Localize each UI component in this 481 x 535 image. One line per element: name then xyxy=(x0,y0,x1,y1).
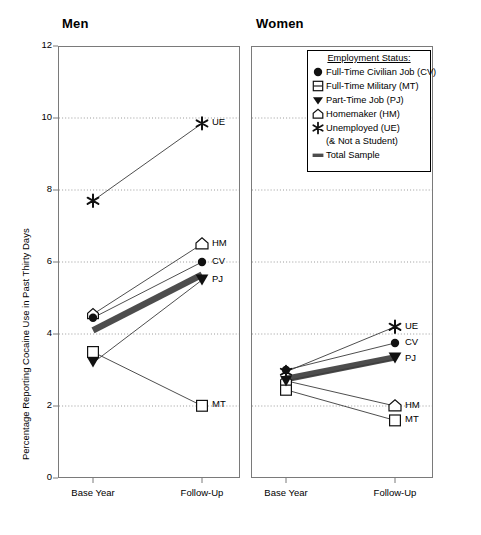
filled-triangle-down-icon xyxy=(311,94,325,106)
legend-label-mt: Full-Time Military (MT) xyxy=(325,82,419,91)
marker-cv-women-base xyxy=(282,366,290,374)
y-tick-8: 8 xyxy=(30,183,52,194)
markers-women-base xyxy=(280,366,292,395)
point-label-women-mt: MT xyxy=(405,413,419,424)
y-tick-0: 0 xyxy=(30,471,52,482)
marker-cv-men-base xyxy=(89,314,97,322)
x-tick-women-follow: Follow-Up xyxy=(365,487,425,498)
point-label-men-pj: PJ xyxy=(212,273,223,284)
series-lines-men xyxy=(93,123,202,405)
marker-hm-men-follow xyxy=(196,238,208,249)
figure-root: Percentage Reporting Cocaine Use in Past… xyxy=(0,0,481,535)
series-total-sample-women xyxy=(286,357,395,379)
marker-mt-men-base xyxy=(88,347,99,358)
legend-title: Employment Status: xyxy=(308,51,430,65)
marker-ue-men-base xyxy=(88,195,99,207)
star-icon xyxy=(311,122,325,134)
y-tick-2: 2 xyxy=(30,399,52,410)
marker-ue-women-follow xyxy=(390,321,401,333)
x-tick-women-base: Base Year xyxy=(256,487,316,498)
filled-circle-icon xyxy=(311,66,325,78)
legend-label-cv: Full-Time Civilian Job (CV) xyxy=(325,68,436,77)
legend-item-total: Total Sample xyxy=(308,148,430,162)
panel-men: UE HM CV PJ MT xyxy=(58,46,240,478)
panel-women: UE CV PJ HM MT Employment Status: Full-T… xyxy=(251,46,433,478)
point-label-women-pj: PJ xyxy=(405,352,416,363)
point-label-women-hm: HM xyxy=(405,399,420,410)
legend-item-ue: Unemployed (UE) xyxy=(308,121,430,135)
point-label-women-ue: UE xyxy=(405,320,418,331)
legend-item-pj: Part-Time Job (PJ) xyxy=(308,93,430,107)
legend-sub-note: (& Not a Student) xyxy=(308,135,430,148)
point-label-men-cv: CV xyxy=(212,255,225,266)
y-axis-ticks: 12 10 8 6 4 2 0 xyxy=(30,46,58,478)
markers-women-follow xyxy=(389,321,402,426)
marker-mt-men-follow xyxy=(197,400,208,411)
point-label-women-cv: CV xyxy=(405,336,418,347)
legend: Employment Status: Full-Time Civilian Jo… xyxy=(307,50,431,172)
panel-title-men: Men xyxy=(62,16,89,31)
open-house-icon xyxy=(311,108,325,120)
x-tick-men-follow: Follow-Up xyxy=(172,487,232,498)
x-tick-men-base: Base Year xyxy=(63,487,123,498)
y-tick-12: 12 xyxy=(30,39,52,50)
legend-label-hm: Homemaker (HM) xyxy=(325,110,400,119)
y-tick-10: 10 xyxy=(30,111,52,122)
legend-label-total: Total Sample xyxy=(325,151,380,160)
marker-mt-women-follow xyxy=(390,415,401,426)
point-label-men-mt: MT xyxy=(212,398,226,409)
thick-bar-icon xyxy=(311,149,325,161)
legend-label-pj: Part-Time Job (PJ) xyxy=(325,96,404,105)
marker-cv-men-follow xyxy=(198,258,206,266)
markers-men-base xyxy=(87,195,99,368)
point-label-men-hm: HM xyxy=(212,237,227,248)
point-label-men-ue: UE xyxy=(212,116,225,127)
marker-ue-men-follow xyxy=(197,117,208,129)
marker-hm-women-follow xyxy=(389,400,401,411)
marker-cv-women-follow xyxy=(391,339,399,347)
open-square-icon xyxy=(311,80,325,92)
panel-title-women: Women xyxy=(256,16,304,31)
y-tick-6: 6 xyxy=(30,255,52,266)
legend-item-hm: Homemaker (HM) xyxy=(308,107,430,121)
series-total-sample-men xyxy=(93,275,202,331)
legend-label-ue: Unemployed (UE) xyxy=(325,124,400,133)
y-tick-4: 4 xyxy=(30,327,52,338)
marker-pj-men-base xyxy=(87,358,99,368)
legend-item-mt: Full-Time Military (MT) xyxy=(308,79,430,93)
legend-item-cv: Full-Time Civilian Job (CV) xyxy=(308,65,430,79)
